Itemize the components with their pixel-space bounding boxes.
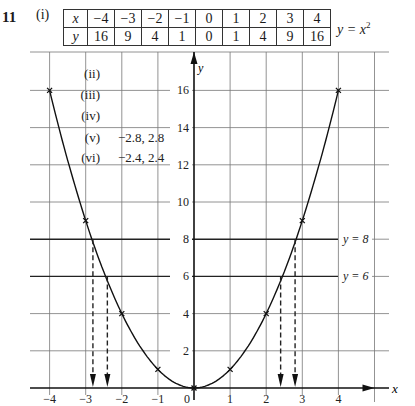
axes: xy	[30, 52, 398, 400]
answer-label: (iii)	[81, 87, 101, 102]
x-tick-label: −2	[115, 392, 128, 406]
x-tick-label: −1	[152, 392, 165, 406]
y-tick-label: 6	[183, 269, 189, 283]
answer-value: −2.4, 2.4	[118, 150, 165, 165]
reference-line-label: y = 8	[342, 232, 368, 246]
x-axis-label: x	[391, 381, 398, 396]
y-tick-label: 4	[183, 307, 189, 321]
answer-label: (ii)	[84, 66, 100, 81]
arrow-down-icon	[90, 374, 96, 387]
answer-label: (vi)	[81, 150, 100, 165]
x-tick-label: −3	[79, 392, 92, 406]
answer-label: (v)	[85, 130, 100, 145]
x-tick-label: 1	[227, 392, 233, 406]
arrow-down-icon	[292, 374, 298, 387]
y-axis-label: y	[197, 61, 204, 75]
x-tick-label: −4	[43, 392, 56, 406]
y-tick-label: 12	[177, 158, 189, 172]
x-tick-label: 2	[263, 392, 269, 406]
x-tick-label: 0	[184, 392, 190, 406]
reference-lines: y = 8y = 6	[30, 232, 389, 283]
y-tick-label: 16	[177, 83, 189, 97]
answer-label: (iv)	[81, 108, 100, 123]
arrow-down-icon	[104, 374, 110, 387]
x-tick-label: 4	[335, 392, 341, 406]
answers-list: (ii)(iii)(iv)(v)−2.8, 2.8(vi)−2.4, 2.4	[81, 66, 165, 165]
answer-value: −2.8, 2.8	[118, 130, 164, 145]
y-tick-label: 14	[177, 121, 189, 135]
y-tick-label: 10	[177, 195, 189, 209]
y-axis-arrow-icon	[191, 52, 198, 64]
y-tick-label: 2	[183, 344, 189, 358]
arrow-down-icon	[278, 374, 284, 387]
reference-line-label: y = 6	[342, 269, 368, 283]
x-axis-arrow-icon	[363, 385, 375, 392]
parabola-graph: y = 8y = 6 xy −4−3−2−101234246810121416 …	[0, 0, 415, 406]
y-tick-label: 8	[183, 232, 189, 246]
x-tick-label: 3	[299, 392, 305, 406]
